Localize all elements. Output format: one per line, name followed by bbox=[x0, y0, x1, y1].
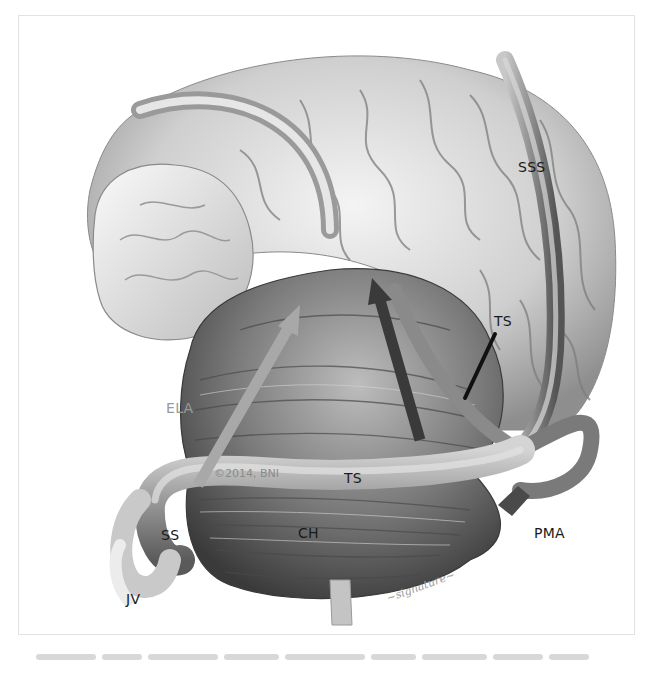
label-pma: PMA bbox=[534, 525, 565, 541]
label-ela: ELA bbox=[166, 400, 193, 416]
label-jv: JV bbox=[126, 591, 140, 607]
copyright-text: ©2014, BNI bbox=[214, 467, 279, 480]
label-sss: SSS bbox=[518, 159, 546, 175]
label-ts-upper: TS bbox=[494, 313, 512, 329]
label-ts-lower: TS bbox=[344, 470, 362, 486]
label-ss: SS bbox=[161, 527, 179, 543]
blurred-caption bbox=[36, 646, 616, 660]
anatomy-illustration bbox=[0, 0, 654, 674]
label-ch: CH bbox=[298, 525, 319, 541]
